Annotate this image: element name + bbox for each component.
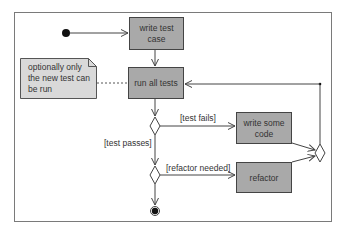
- note-line: optionally only: [28, 62, 83, 72]
- note-line: the new test can: [28, 73, 90, 83]
- guard-test-passes: [test passes]: [104, 138, 152, 148]
- final-node-inner: [152, 208, 158, 214]
- guard-test-fails: [test fails]: [180, 113, 216, 123]
- activity-diagram: write test case run all tests optionally…: [0, 0, 342, 231]
- activity-label: run all tests: [134, 78, 177, 88]
- activity-run-all-tests: run all tests: [129, 68, 184, 99]
- activity-label: code: [255, 129, 274, 139]
- activity-write-test-case: write test case: [130, 18, 184, 50]
- initial-node: [62, 29, 70, 37]
- activity-label: write test: [138, 23, 174, 33]
- activity-label: write some: [242, 118, 284, 128]
- activity-write-some-code: write some code: [237, 113, 292, 144]
- activity-label: case: [148, 34, 166, 44]
- activity-refactor: refactor: [237, 163, 292, 193]
- note-optionally-only: optionally only the new test can be run: [21, 59, 97, 99]
- activity-label: refactor: [250, 173, 279, 183]
- note-line: be run: [28, 84, 52, 94]
- guard-refactor-needed: [refactor needed]: [166, 163, 230, 173]
